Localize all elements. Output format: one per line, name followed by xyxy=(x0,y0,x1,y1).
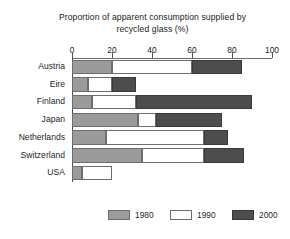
legend-item-1990: 1990 xyxy=(170,208,216,222)
category-label-japan: Japan xyxy=(42,111,65,129)
chart-title: Proportion of apparent consumption suppl… xyxy=(40,12,265,35)
bar-segment-japan-1980 xyxy=(72,113,138,127)
bar-row-usa xyxy=(72,164,272,182)
bar-row-austria xyxy=(72,58,272,76)
category-label-austria: Austria xyxy=(38,58,65,76)
y-axis-category-labels: AustriaEireFinlandJapanNetherlandsSwitze… xyxy=(0,58,69,182)
category-label-usa: USA xyxy=(47,164,65,182)
legend-swatch-2000 xyxy=(232,210,254,220)
chart-title-line-1: Proportion of apparent consumption suppl… xyxy=(59,12,246,22)
bar-segment-austria-1990 xyxy=(112,60,192,74)
bar-segment-netherlands-1980 xyxy=(72,130,106,144)
bar-segment-eire-1990 xyxy=(88,77,112,91)
x-tick-mark xyxy=(72,52,73,58)
bar-segment-netherlands-2000 xyxy=(204,130,228,144)
chart-legend: 198019902000 xyxy=(108,208,288,224)
category-label-netherlands: Netherlands xyxy=(19,129,65,147)
x-tick-mark xyxy=(112,52,113,58)
bar-row-finland xyxy=(72,93,272,111)
x-tick-mark xyxy=(232,52,233,58)
bar-segment-finland-1990 xyxy=(92,95,136,109)
bar-segment-austria-2000 xyxy=(192,60,242,74)
legend-item-2000: 2000 xyxy=(232,208,278,222)
bar-row-netherlands xyxy=(72,129,272,147)
bar-segment-japan-1990 xyxy=(138,113,156,127)
legend-item-1980: 1980 xyxy=(108,208,154,222)
x-tick-mark xyxy=(272,52,273,58)
bar-segment-eire-1980 xyxy=(72,77,88,91)
category-label-finland: Finland xyxy=(37,93,65,111)
bar-segment-finland-1980 xyxy=(72,95,92,109)
plot-area xyxy=(72,58,272,182)
bar-segment-usa-1980 xyxy=(72,166,82,180)
bar-row-japan xyxy=(72,111,272,129)
legend-label-2000: 2000 xyxy=(259,210,278,220)
x-axis-tick-labels: 020406080100 xyxy=(72,45,272,57)
bar-segment-austria-1980 xyxy=(72,60,112,74)
bar-segment-finland-2000 xyxy=(136,95,252,109)
x-tick-mark xyxy=(192,52,193,58)
bar-segment-usa-1990 xyxy=(82,166,112,180)
bar-segment-eire-2000 xyxy=(112,77,136,91)
chart-title-line-2: recycled glass (%) xyxy=(40,24,265,36)
chart-container: Proportion of apparent consumption suppl… xyxy=(0,0,290,239)
bar-segment-japan-2000 xyxy=(156,113,222,127)
x-tick-mark xyxy=(152,52,153,58)
bar-segment-switzerland-1980 xyxy=(72,148,142,162)
bar-row-eire xyxy=(72,76,272,94)
legend-label-1980: 1980 xyxy=(135,210,154,220)
legend-label-1990: 1990 xyxy=(197,210,216,220)
bar-segment-switzerland-2000 xyxy=(204,148,244,162)
legend-swatch-1990 xyxy=(170,210,192,220)
bar-segment-switzerland-1990 xyxy=(142,148,204,162)
legend-swatch-1980 xyxy=(108,210,130,220)
bar-row-switzerland xyxy=(72,147,272,165)
bar-segment-netherlands-1990 xyxy=(106,130,204,144)
category-label-switzerland: Switzerland xyxy=(21,147,65,165)
category-label-eire: Eire xyxy=(50,76,65,94)
